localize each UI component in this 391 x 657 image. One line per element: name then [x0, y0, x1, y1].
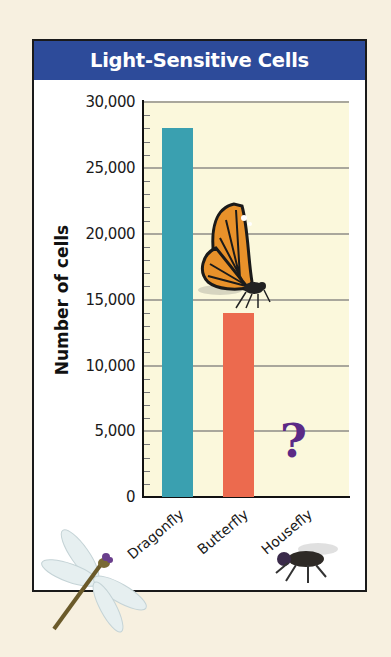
- ytick-label: 25,000: [55, 159, 135, 177]
- minor-tick: [144, 194, 150, 195]
- minor-tick: [144, 247, 150, 248]
- minor-tick: [144, 142, 150, 143]
- minor-tick: [144, 444, 150, 445]
- minor-tick: [144, 273, 150, 274]
- minor-tick: [144, 128, 150, 129]
- minor-tick: [144, 339, 150, 340]
- minor-tick: [144, 418, 150, 419]
- housefly-icon: [270, 537, 350, 589]
- minor-tick: [144, 286, 150, 287]
- minor-tick: [144, 471, 150, 472]
- chart-title: Light-Sensitive Cells: [34, 41, 365, 80]
- ytick-label: 5,000: [55, 422, 135, 440]
- minor-tick: [144, 207, 150, 208]
- bar-butterfly: [223, 313, 254, 497]
- minor-tick: [144, 484, 150, 485]
- ytick-label: 0: [55, 488, 135, 506]
- y-axis: [142, 100, 144, 498]
- y-axis-label: Number of cells: [52, 225, 72, 375]
- minor-tick: [144, 260, 150, 261]
- minor-tick: [144, 181, 150, 182]
- minor-tick: [144, 115, 150, 116]
- dragonfly-icon: [40, 525, 150, 635]
- ytick-label: 30,000: [55, 93, 135, 111]
- minor-tick: [144, 405, 150, 406]
- minor-tick: [144, 155, 150, 156]
- minor-tick: [144, 392, 150, 393]
- unknown-value-question-mark: ?: [280, 414, 307, 468]
- minor-tick: [144, 326, 150, 327]
- gridline-30000: [144, 101, 349, 103]
- minor-tick: [144, 458, 150, 459]
- minor-tick: [144, 221, 150, 222]
- butterfly-icon: [196, 198, 271, 310]
- minor-tick: [144, 352, 150, 353]
- minor-tick: [144, 379, 150, 380]
- bar-dragonfly: [162, 128, 193, 497]
- minor-tick: [144, 313, 150, 314]
